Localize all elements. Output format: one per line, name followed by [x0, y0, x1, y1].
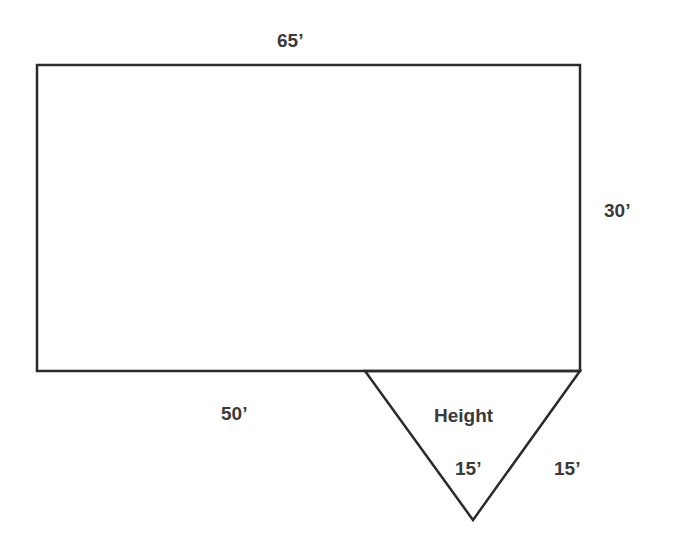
- rectangle-shape: [37, 65, 580, 371]
- triangle-height-word-label: Height: [434, 405, 493, 427]
- triangle-height-value-label: 15’: [455, 458, 481, 480]
- top-width-label: 65’: [277, 30, 303, 52]
- triangle-shape: [365, 371, 580, 520]
- triangle-side-label: 15’: [554, 458, 580, 480]
- bottom-segment-label: 50’: [221, 403, 247, 425]
- right-height-label: 30’: [604, 200, 630, 222]
